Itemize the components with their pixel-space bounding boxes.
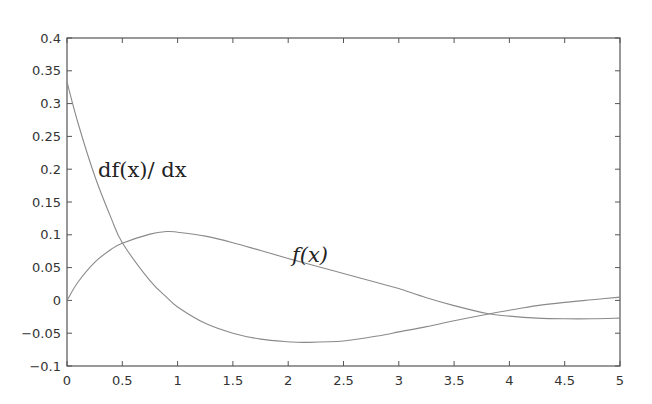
curves [67, 82, 620, 342]
y-tick-label: 0.4 [40, 31, 61, 46]
line-chart: 00.511.522.533.544.55−0.1−0.0500.050.10.… [0, 0, 652, 404]
x-tick-label: 5 [616, 373, 624, 388]
x-tick-label: 3 [395, 373, 403, 388]
x-tick-label: 0 [63, 373, 71, 388]
x-tick-label: 4 [505, 373, 513, 388]
x-tick-label: 3.5 [444, 373, 465, 388]
f-curve-label: f(x) [290, 243, 328, 267]
df-dx-curve [67, 82, 620, 342]
x-tick-label: 1 [173, 373, 181, 388]
y-tick-label: 0.15 [32, 195, 61, 210]
y-tick-label: −0.1 [29, 359, 61, 374]
y-tick-label: 0.1 [40, 227, 61, 242]
y-tick-label: 0.05 [32, 260, 61, 275]
x-tick-label: 2 [284, 373, 292, 388]
plot-axes [67, 38, 620, 366]
y-tick-label: 0.25 [32, 129, 61, 144]
y-tick-label: −0.05 [21, 326, 61, 341]
plot-frame [67, 38, 620, 366]
y-tick-label: 0 [53, 293, 61, 308]
y-tick-label: 0.2 [40, 162, 61, 177]
x-tick-label: 2.5 [333, 373, 354, 388]
y-tick-label: 0.3 [40, 96, 61, 111]
x-tick-label: 0.5 [112, 373, 133, 388]
x-tick-label: 4.5 [554, 373, 575, 388]
x-tick-label: 1.5 [223, 373, 244, 388]
y-tick-label: 0.35 [32, 63, 61, 78]
axis-ticks: 00.511.522.533.544.55−0.1−0.0500.050.10.… [21, 31, 624, 389]
df-dx-curve-label: df(x)/ dx [98, 158, 187, 182]
